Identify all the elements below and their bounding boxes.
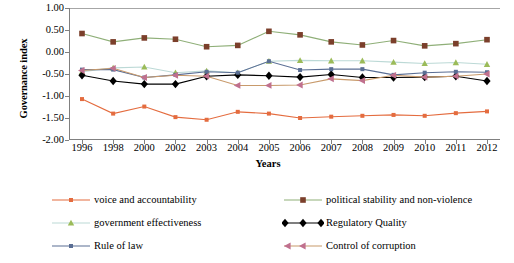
legend-label: Regulatory Quality [326,217,407,228]
legend-item[interactable]: political stability and non-violence [282,188,496,211]
series-1 [79,29,490,50]
x-tick-label: 2007 [321,142,342,153]
x-tick-label: 2006 [290,142,311,153]
legend-marker-icon [50,194,92,206]
legend-marker-icon [50,217,92,229]
legend-item[interactable]: voice and accountability [50,188,282,211]
legend-label: government effectiveness [94,217,201,228]
y-axis-tick-labels: 1.000.500.00-0.50-1.00-1.50-2.00 [33,8,67,140]
governance-index-line-chart: Governance index 1.000.500.00-0.50-1.00-… [0,0,514,263]
y-tick-mark [65,8,69,9]
x-tick-label: 2010 [414,142,435,153]
x-tick-label: 2005 [258,142,279,153]
x-tick-label: 2000 [134,142,155,153]
y-tick-mark [65,30,69,31]
x-axis-tick-labels: 1996199820002002200320042005200620072008… [69,142,500,158]
legend-label: Rule of law [94,240,143,251]
x-tick-label: 2011 [446,142,467,153]
x-tick-label: 2003 [196,142,217,153]
y-tick-mark [65,118,69,119]
legend-marker-icon [282,194,324,206]
plot-area: 1.000.500.00-0.50-1.00-1.50-2.00 1996199… [33,8,503,156]
series-plot [69,8,500,140]
y-tick-label: -0.50 [42,69,64,79]
y-axis-title: Governance index [18,9,29,149]
y-tick-label: 0.50 [46,25,64,35]
y-tick-mark [65,52,69,53]
x-tick-label: 2009 [383,142,404,153]
legend-item[interactable]: Rule of law [50,234,282,257]
legend-item[interactable]: Regulatory Quality [282,211,496,234]
legend-marker-icon [282,217,324,229]
chart-legend: voice and accountabilitypolitical stabil… [50,188,496,258]
y-tick-mark [65,140,69,141]
x-tick-label: 2012 [477,142,498,153]
legend-item[interactable]: Control of corruption [282,234,496,257]
legend-marker-icon [282,240,324,252]
series-0 [80,97,489,122]
y-tick-label: -1.50 [42,113,64,123]
y-tick-mark [65,74,69,75]
y-tick-label: 1.00 [46,3,64,13]
y-tick-label: -2.00 [42,135,64,145]
legend-item[interactable]: government effectiveness [50,211,282,234]
legend-marker-icon [50,240,92,252]
x-tick-label: 2008 [352,142,373,153]
x-tick-label: 2004 [227,142,248,153]
x-tick-label: 1998 [103,142,124,153]
legend-label: political stability and non-violence [326,194,472,205]
x-tick-label: 2002 [165,142,186,153]
plot-canvas [69,8,500,140]
y-tick-label: 0.00 [46,47,64,57]
y-tick-mark [65,96,69,97]
y-tick-label: -1.00 [42,91,64,101]
x-axis-title: Years [33,158,503,169]
x-tick-label: 1996 [72,142,93,153]
legend-label: Control of corruption [326,240,416,251]
legend-label: voice and accountability [94,194,197,205]
